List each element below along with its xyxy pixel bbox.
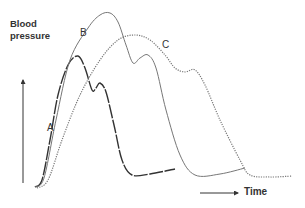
y-axis-label-line1: Blood <box>10 18 50 30</box>
series-c-line <box>37 35 292 188</box>
series-label-a: A <box>47 122 54 133</box>
series-b-line <box>35 12 245 187</box>
y-axis-label: Blood pressure <box>10 18 50 42</box>
y-axis-label-line2: pressure <box>10 30 50 42</box>
x-axis-label: Time <box>244 186 267 197</box>
series-label-b: B <box>80 27 87 38</box>
series-label-c: C <box>162 39 169 50</box>
